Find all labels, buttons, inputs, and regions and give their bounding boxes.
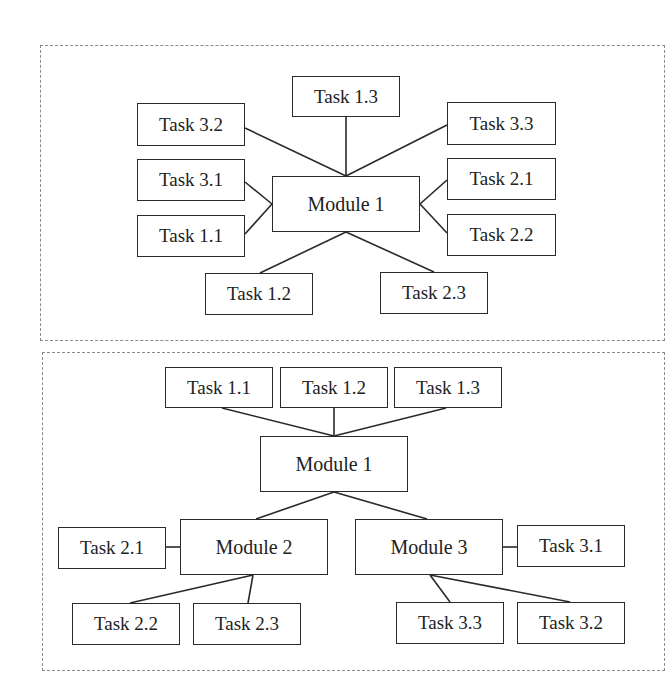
bottom-module-3: Module 3: [355, 519, 503, 575]
top-task-2-3: Task 2.3: [380, 272, 488, 314]
bottom-module-1: Module 1: [260, 436, 408, 492]
top-task-2-2: Task 2.2: [447, 214, 556, 256]
edge-root-task11: [222, 408, 334, 436]
edge-module1-task33: [346, 125, 447, 176]
top-task-3-3: Task 3.3: [447, 102, 556, 145]
bottom-task-1-1: Task 1.1: [165, 367, 273, 408]
bottom-task-1-2: Task 1.2: [280, 367, 388, 408]
bottom-task-2-2: Task 2.2: [72, 603, 180, 645]
top-task-2-1: Task 2.1: [447, 158, 556, 200]
edge-root-module2: [256, 492, 334, 519]
bottom-task-3-2: Task 3.2: [517, 602, 625, 644]
edge-module1-task31: [245, 182, 272, 204]
edge-module1-task21: [420, 180, 447, 204]
edge-module1-task32: [245, 128, 346, 176]
top-task-3-1: Task 3.1: [137, 159, 245, 201]
edge-root-task13: [334, 408, 446, 436]
edge-module1-task23: [346, 232, 434, 272]
bottom-task-1-3: Task 1.3: [394, 367, 502, 408]
bottom-module-2: Module 2: [180, 519, 328, 575]
edge-root-module3: [334, 492, 427, 519]
bottom-task-3-3: Task 3.3: [396, 602, 504, 644]
edge-module1-task12: [260, 232, 346, 273]
bottom-task-2-3: Task 2.3: [193, 603, 301, 645]
top-task-1-2: Task 1.2: [205, 273, 313, 315]
edge-module1-task11: [245, 204, 272, 234]
top-task-1-1: Task 1.1: [137, 215, 245, 257]
top-task-3-2: Task 3.2: [137, 103, 245, 146]
edge-module3-task32: [430, 575, 570, 602]
bottom-task-3-1: Task 3.1: [517, 525, 625, 567]
edge-module1-task22: [420, 204, 447, 233]
edge-module2-task22: [130, 575, 253, 603]
top-module-1: Module 1: [272, 176, 420, 232]
edge-module2-task23: [248, 575, 253, 603]
top-task-1-3: Task 1.3: [292, 76, 400, 117]
bottom-task-2-1: Task 2.1: [58, 527, 166, 569]
